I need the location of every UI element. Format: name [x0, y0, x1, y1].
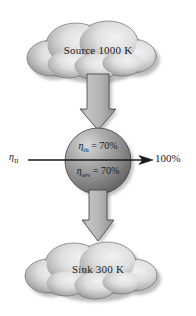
eta-second-law-subscript: II	[14, 157, 19, 164]
eta-second-law-label: ηII	[9, 152, 19, 165]
eta-thermal-value: 70%	[99, 140, 117, 151]
eta-thermal-equals: =	[89, 140, 100, 151]
thermodynamics-diagram: Source 1000 K ηth = 70% ηrev = 70% ηII 1…	[0, 0, 196, 316]
eta-reversible-value: 70%	[101, 165, 119, 176]
eta-reversible-equals: =	[90, 165, 101, 176]
heat-engine-sphere	[65, 128, 134, 197]
source-cloud-label: Source 1000 K	[0, 45, 196, 56]
sink-cloud-label: Sink 300 K	[0, 264, 196, 275]
engine-sphere-body	[65, 128, 131, 194]
eta-reversible-label: ηrev = 70%	[0, 166, 196, 179]
work-output-value-label: 100%	[155, 153, 181, 164]
heat-out-arrow	[82, 190, 116, 243]
heat-in-arrow	[80, 74, 118, 133]
